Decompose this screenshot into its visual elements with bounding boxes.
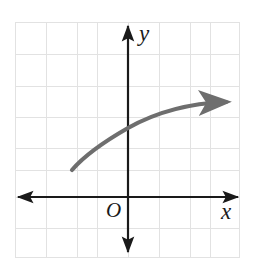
y-axis-label: y: [139, 22, 149, 45]
square-root-curve-path: [72, 102, 226, 170]
function-curve: [72, 102, 226, 170]
graph-figure: y x O: [0, 0, 253, 264]
coordinate-plane-svg: [0, 0, 253, 264]
axes: [18, 26, 238, 252]
x-axis-label: x: [221, 200, 231, 223]
origin-label: O: [106, 200, 121, 221]
